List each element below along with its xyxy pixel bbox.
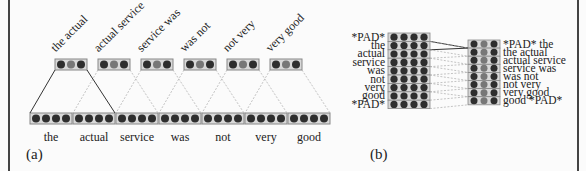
vector-unit-dot (410, 84, 417, 91)
vector-unit-dot (481, 49, 488, 56)
output-row-label: good *PAD* (503, 95, 562, 107)
window-connector-line (430, 67, 468, 73)
vector-unit-dot (400, 76, 407, 83)
vector-unit-dot (400, 84, 407, 91)
vector-unit-dot (410, 50, 417, 57)
window-connector-line (430, 50, 468, 56)
vector-unit-dot (390, 50, 397, 57)
vector-unit-dot (400, 67, 407, 74)
vector-unit-dot (410, 42, 417, 49)
vector-unit-dot (390, 101, 397, 108)
vector-unit-dot (410, 76, 417, 83)
vector-unit-dot (390, 92, 397, 99)
window-connector-line (430, 64, 468, 66)
vector-unit-dot (400, 59, 407, 66)
window-connector-line (430, 97, 468, 101)
vector-unit-dot (390, 76, 397, 83)
vector-unit-dot (390, 84, 397, 91)
vector-unit-dot (410, 67, 417, 74)
vector-unit-dot (481, 89, 488, 96)
window-connector-line (430, 48, 468, 50)
vector-unit-dot (481, 97, 488, 104)
panel-b: *PAD*theactualservicewasnotverygood*PAD*… (0, 0, 586, 171)
vector-unit-dot (481, 41, 488, 48)
vector-unit-dot (471, 89, 478, 96)
vector-unit-dot (491, 65, 498, 72)
vector-unit-dot (400, 92, 407, 99)
vector-unit-dot (471, 57, 478, 64)
vector-unit-dot (420, 84, 427, 91)
vector-unit-dot (400, 42, 407, 49)
vector-unit-dot (390, 42, 397, 49)
vector-unit-dot (471, 41, 478, 48)
vector-unit-dot (481, 57, 488, 64)
vector-unit-dot (491, 57, 498, 64)
vector-unit-dot (410, 34, 417, 41)
vector-unit-dot (471, 97, 478, 104)
vector-unit-dot (390, 34, 397, 41)
vector-unit-dot (491, 41, 498, 48)
window-connector-line (430, 75, 468, 81)
vector-unit-dot (390, 59, 397, 66)
window-connector-line (430, 81, 468, 84)
vector-unit-dot (420, 76, 427, 83)
vector-unit-dot (420, 50, 427, 57)
window-connector-line (430, 92, 468, 97)
vector-unit-dot (410, 101, 417, 108)
vector-unit-dot (400, 34, 407, 41)
vector-unit-dot (491, 81, 498, 88)
vector-unit-dot (471, 81, 478, 88)
vector-unit-dot (420, 92, 427, 99)
vector-unit-dot (410, 92, 417, 99)
window-connector-line (430, 89, 468, 92)
window-connector-line (430, 105, 468, 109)
vector-unit-dot (420, 42, 427, 49)
vector-unit-dot (420, 67, 427, 74)
vector-unit-dot (471, 73, 478, 80)
vector-unit-dot (400, 101, 407, 108)
vector-unit-dot (481, 81, 488, 88)
panel-b-caption: (b) (370, 146, 388, 163)
window-connector-line (430, 58, 468, 64)
vector-unit-dot (471, 49, 478, 56)
vector-unit-dot (491, 73, 498, 80)
vector-unit-dot (420, 101, 427, 108)
vector-unit-dot (481, 65, 488, 72)
vector-unit-dot (491, 49, 498, 56)
input-row-label: *PAD* (335, 99, 385, 111)
vector-unit-dot (471, 65, 478, 72)
window-connector-line (430, 83, 468, 88)
vector-unit-dot (400, 50, 407, 57)
window-connector-line (430, 72, 468, 75)
vector-unit-dot (491, 97, 498, 104)
vector-unit-dot (481, 73, 488, 80)
vector-unit-dot (420, 59, 427, 66)
vector-unit-dot (410, 59, 417, 66)
vector-unit-dot (390, 67, 397, 74)
vector-unit-dot (491, 89, 498, 96)
panel-b-graphic (0, 0, 586, 171)
vector-unit-dot (420, 34, 427, 41)
window-connector-line (430, 56, 468, 58)
